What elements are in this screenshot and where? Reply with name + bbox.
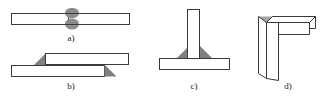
tee-joint-base-plate [160, 59, 230, 70]
joint-label-b: b) [67, 81, 75, 91]
lap-joint-lower-plate [12, 66, 105, 77]
lap-joint-upper-plate [46, 54, 129, 65]
joint-label-d: d) [284, 81, 292, 91]
joint-label-a: a) [68, 33, 75, 43]
joint-label-c: c) [191, 81, 198, 91]
butt-joint-left-plate [12, 14, 69, 25]
corner-joint-vertical-arm-side [259, 17, 267, 79]
welded-joints-figure: a) b) c) [0, 0, 327, 96]
tee-joint-web-plate [188, 10, 200, 59]
figure-canvas: a) b) c) [0, 0, 327, 96]
corner-joint-vertical-arm-face [267, 23, 279, 81]
corner-joint-horizontal-arm-top [267, 17, 316, 23]
